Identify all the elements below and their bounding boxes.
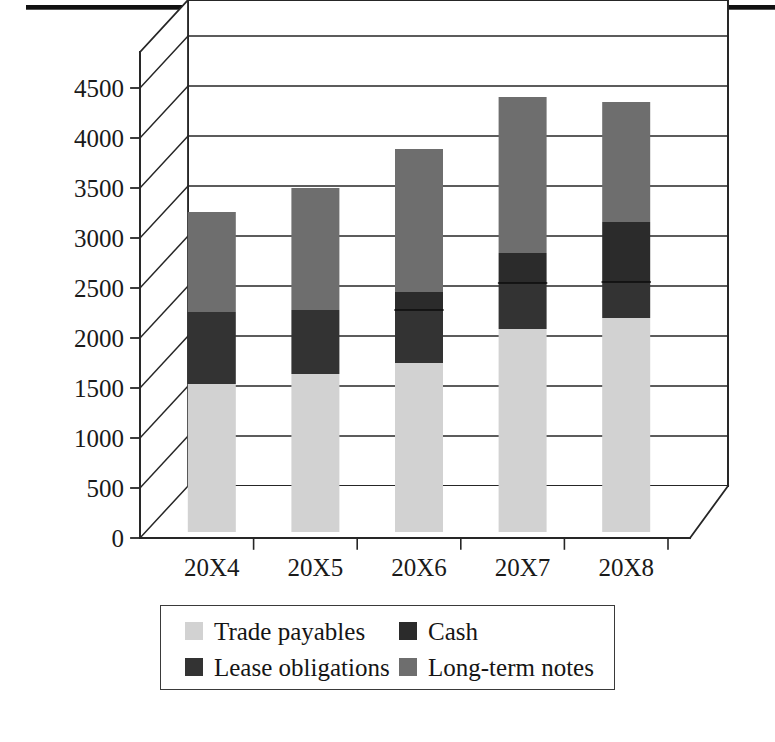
bar-segment	[291, 374, 339, 532]
legend-label-long-term-notes: Long-term notes	[428, 655, 594, 680]
bar-segment	[395, 292, 443, 310]
legend-swatch-lease-obligations	[185, 658, 203, 676]
legend-item-long-term-notes: Long-term notes	[393, 655, 594, 680]
x-tick-label: 20X6	[391, 554, 447, 581]
y-tick-label: 2000	[74, 325, 124, 352]
legend-row: Lease obligations Long-term notes	[161, 649, 614, 685]
y-axis-tick-labels: 050010001500200025003000350040004500	[74, 75, 124, 552]
legend-item-cash: Cash	[393, 619, 478, 644]
legend-swatch-trade-payables	[185, 622, 203, 640]
x-tick-label: 20X5	[288, 554, 344, 581]
bar-segment	[188, 212, 236, 312]
y-tick-label: 1000	[74, 425, 124, 452]
bar-segment	[602, 282, 650, 318]
y-tick-label: 4500	[74, 75, 124, 102]
bar-segment	[499, 97, 547, 253]
bar-segment	[602, 318, 650, 532]
legend-label-lease-obligations: Lease obligations	[214, 655, 390, 680]
x-axis-tick-labels: 20X420X520X620X720X8	[184, 554, 654, 581]
bar-segment	[602, 222, 650, 282]
legend-swatch-cash	[399, 622, 417, 640]
y-tick-label: 2500	[74, 275, 124, 302]
bar-segment	[291, 188, 339, 310]
bar-segment	[499, 253, 547, 283]
x-tick-label: 20X7	[495, 554, 551, 581]
legend-swatch-long-term-notes	[399, 658, 417, 676]
legend-label-trade-payables: Trade payables	[214, 619, 365, 644]
legend-row: Trade payables Cash	[161, 613, 614, 649]
bar-segment	[395, 149, 443, 292]
bar-segment	[188, 384, 236, 532]
bar-segment	[291, 310, 339, 374]
y-tick-label: 3500	[74, 175, 124, 202]
y-tick-label: 500	[87, 475, 125, 502]
x-tick-label: 20X8	[598, 554, 654, 581]
y-tick-label: 4000	[74, 125, 124, 152]
y-tick-label: 0	[112, 525, 125, 552]
bar-segment	[188, 312, 236, 384]
bar-segment	[395, 310, 443, 363]
legend-label-cash: Cash	[428, 619, 478, 644]
legend-item-lease-obligations: Lease obligations	[161, 655, 393, 680]
y-tick-label: 3000	[74, 225, 124, 252]
stacked-bar-chart-figure: 050010001500200025003000350040004500 20X…	[0, 0, 775, 742]
chart-legend: Trade payables Cash Lease obligations Lo…	[160, 605, 615, 690]
legend-item-trade-payables: Trade payables	[161, 619, 393, 644]
y-tick-label: 1500	[74, 375, 124, 402]
bar-segment	[395, 363, 443, 532]
bar-segment	[499, 283, 547, 329]
bar-segment	[499, 329, 547, 532]
bar-segment	[602, 102, 650, 222]
x-tick-label: 20X4	[184, 554, 240, 581]
